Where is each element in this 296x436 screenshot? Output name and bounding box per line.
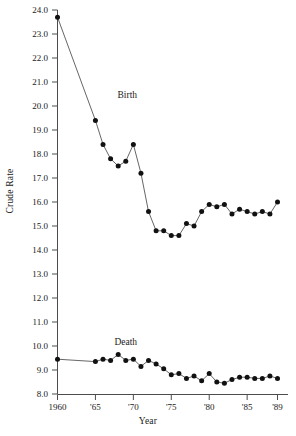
y-tick-label: 8.0 — [37, 389, 49, 399]
x-tick-label: '80 — [204, 402, 215, 412]
data-point-death — [116, 352, 121, 357]
data-point-birth — [131, 142, 136, 147]
y-tick-label: 16.0 — [32, 197, 48, 207]
data-point-death — [260, 376, 265, 381]
series-lines — [58, 17, 278, 383]
y-tick-label: 19.0 — [32, 125, 48, 135]
x-tick-label: '65 — [90, 402, 101, 412]
data-point-birth — [222, 202, 227, 207]
series-annotation-death: Death — [114, 337, 137, 347]
y-tick-label: 13.0 — [32, 269, 48, 279]
data-point-death — [267, 374, 272, 379]
data-point-death — [138, 364, 143, 369]
data-point-death — [207, 371, 212, 376]
y-tick-label: 17.0 — [32, 173, 48, 183]
data-point-death — [199, 378, 204, 383]
data-point-death — [184, 376, 189, 381]
y-tick-label: 24.0 — [32, 5, 48, 15]
data-point-birth — [245, 209, 250, 214]
chart-figure: 8.09.010.011.012.013.014.015.016.017.018… — [0, 0, 296, 436]
data-point-birth — [108, 156, 113, 161]
y-tick-label: 23.0 — [32, 29, 48, 39]
series-annotation-birth: Birth — [118, 90, 138, 100]
data-point-birth — [184, 221, 189, 226]
data-point-birth — [55, 15, 60, 20]
y-tick-label: 9.0 — [37, 365, 49, 375]
data-point-death — [252, 376, 257, 381]
data-point-death — [222, 381, 227, 386]
data-point-birth — [199, 209, 204, 214]
x-axis-title: Year — [0, 416, 296, 426]
data-point-birth — [214, 204, 219, 209]
x-axis-ticks: 1960'65'70'75'80'85'89 — [49, 395, 284, 413]
data-point-birth — [275, 200, 280, 205]
line-chart: 8.09.010.011.012.013.014.015.016.017.018… — [0, 0, 296, 436]
x-tick-label: '85 — [242, 402, 253, 412]
data-point-birth — [154, 228, 159, 233]
x-tick-label: '89 — [272, 402, 283, 412]
data-point-death — [245, 375, 250, 380]
y-tick-label: 10.0 — [32, 341, 48, 351]
data-point-birth — [267, 212, 272, 217]
y-tick-label: 11.0 — [33, 317, 49, 327]
series-annotations: BirthDeath — [114, 90, 137, 347]
series-line-birth — [58, 17, 278, 235]
data-point-death — [275, 376, 280, 381]
data-point-death — [161, 366, 166, 371]
data-point-birth — [169, 233, 174, 238]
data-point-death — [93, 359, 98, 364]
data-point-death — [101, 357, 106, 362]
data-point-birth — [138, 171, 143, 176]
data-point-death — [237, 375, 242, 380]
data-point-birth — [192, 224, 197, 229]
data-point-birth — [123, 159, 128, 164]
y-tick-label: 21.0 — [32, 77, 48, 87]
data-point-birth — [101, 142, 106, 147]
data-point-death — [123, 358, 128, 363]
data-point-death — [108, 358, 113, 363]
y-tick-label: 15.0 — [32, 221, 48, 231]
data-point-death — [146, 358, 151, 363]
y-tick-label: 14.0 — [32, 245, 48, 255]
data-point-birth — [252, 212, 257, 217]
data-point-birth — [116, 164, 121, 169]
data-point-birth — [176, 233, 181, 238]
y-tick-label: 12.0 — [32, 293, 48, 303]
data-point-death — [192, 374, 197, 379]
data-point-birth — [146, 209, 151, 214]
data-point-birth — [161, 228, 166, 233]
x-tick-label: '75 — [166, 402, 177, 412]
data-point-death — [176, 371, 181, 376]
series-line-death — [58, 354, 278, 383]
data-point-birth — [207, 202, 212, 207]
data-point-birth — [229, 212, 234, 217]
y-tick-label: 18.0 — [32, 149, 48, 159]
data-point-birth — [260, 209, 265, 214]
y-tick-label: 20.0 — [32, 101, 48, 111]
y-tick-label: 22.0 — [32, 53, 48, 63]
data-point-birth — [93, 118, 98, 123]
x-tick-label: '70 — [128, 402, 139, 412]
data-point-birth — [237, 207, 242, 212]
y-axis-ticks: 8.09.010.011.012.013.014.015.016.017.018… — [32, 5, 57, 399]
data-point-death — [154, 362, 159, 367]
data-point-death — [169, 372, 174, 377]
y-axis-title: Crude Rate — [5, 159, 15, 223]
series-markers — [55, 15, 280, 386]
data-point-death — [214, 380, 219, 385]
data-point-death — [131, 357, 136, 362]
data-point-death — [55, 357, 60, 362]
data-point-death — [229, 377, 234, 382]
x-tick-label: 1960 — [49, 402, 68, 412]
